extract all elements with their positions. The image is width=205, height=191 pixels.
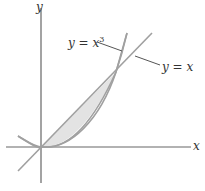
line-y-equals-x	[18, 33, 152, 171]
area-between-curves-figure: y x y = x3 y = x	[0, 0, 205, 191]
parabola-label: y = x3	[68, 36, 104, 49]
plot-canvas	[0, 0, 205, 191]
parabola-label-lhs: y =	[68, 36, 92, 50]
parabola-label-exponent: 3	[99, 35, 104, 44]
line-label: y = x	[162, 61, 193, 73]
y-axis-label: y	[36, 1, 43, 13]
leader-line-y-equals-x	[135, 56, 160, 65]
x-axis-label: x	[193, 140, 200, 152]
